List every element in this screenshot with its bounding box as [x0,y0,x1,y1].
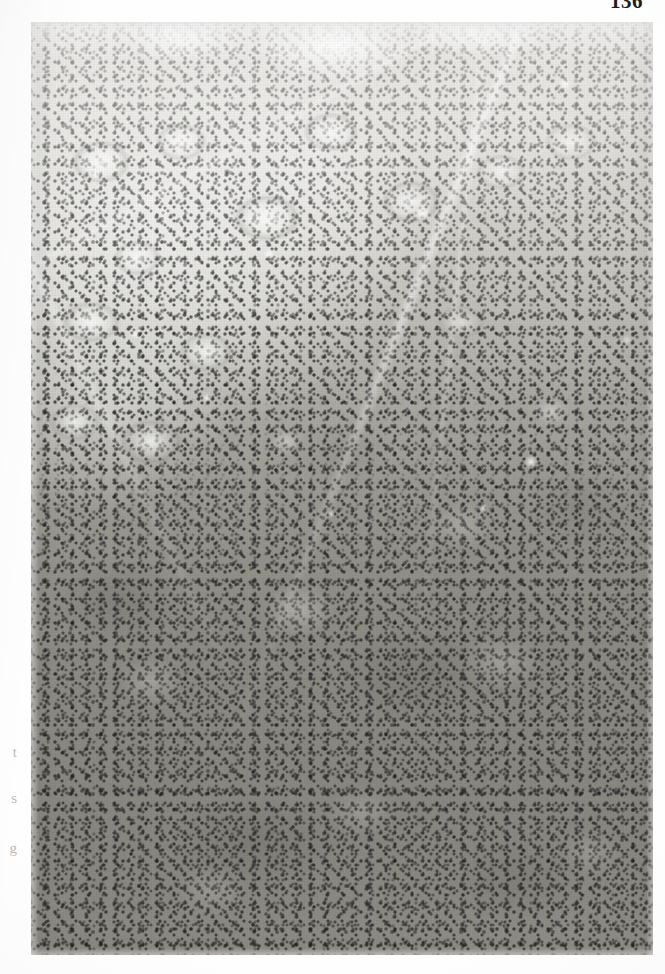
lymphocyte-nuclei-layer [31,22,653,955]
surface-epithelium-lumen [31,22,653,955]
histology-photomicrograph [31,22,653,955]
page-number: 136 [610,0,643,14]
upper-zone-lightening-mask [31,22,653,955]
halftone-screen [31,22,653,955]
tissue-base-tone [31,22,653,955]
germinal-center-foci [31,22,653,955]
gutter-text-fragment: s [0,790,17,807]
pale-glandular-wedge [31,22,653,955]
glandular-acini [31,22,653,955]
gutter-text-fragment: t [0,744,17,761]
print-edge-feather [31,22,653,955]
scanned-page: 136 t s g [0,0,665,974]
lymphocyte-nuclei-layer [31,22,653,955]
dense-lymphoid-infiltrate [31,22,653,955]
photo-vignette [31,22,653,955]
tissue-mottling [31,22,653,955]
lymphocyte-nuclei-layer [31,22,653,955]
connective-tissue-septa [31,22,653,955]
gutter-text-fragment: g [0,840,17,857]
lymphocyte-nuclei-layer [31,22,653,955]
gland-lumina [31,22,653,955]
epithelial-nuclei [31,22,653,955]
